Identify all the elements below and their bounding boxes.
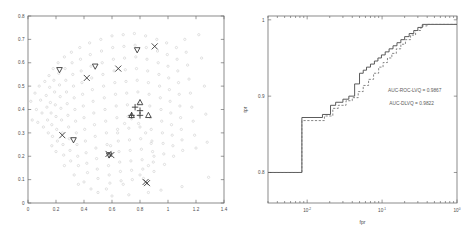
prototype-marker-x	[115, 66, 121, 72]
data-point	[38, 85, 40, 87]
data-point	[102, 73, 104, 75]
data-point	[169, 100, 171, 102]
data-point	[49, 101, 51, 103]
data-point	[101, 62, 103, 64]
data-point	[161, 120, 163, 122]
data-point	[83, 181, 85, 183]
data-point	[64, 67, 66, 69]
data-point	[35, 108, 37, 110]
data-point	[140, 148, 142, 150]
data-point	[168, 88, 170, 90]
data-point	[122, 34, 124, 36]
data-point	[74, 108, 76, 110]
data-point	[125, 80, 127, 82]
data-point	[86, 171, 88, 173]
data-point	[186, 64, 188, 66]
data-point	[94, 135, 96, 137]
data-point	[83, 117, 85, 119]
data-point	[76, 143, 78, 145]
x-tick-label: 1	[167, 207, 170, 212]
data-point	[119, 170, 121, 172]
data-point	[198, 34, 200, 36]
data-point	[65, 79, 67, 81]
data-point	[205, 113, 207, 115]
data-point	[86, 162, 88, 164]
y-tick-label: 0.5	[18, 84, 25, 89]
data-point	[182, 149, 184, 151]
data-point	[37, 121, 39, 123]
data-point	[151, 150, 153, 152]
data-point	[131, 178, 133, 180]
data-point	[203, 85, 205, 87]
data-point	[81, 81, 83, 83]
data-point	[139, 126, 141, 128]
y-tick-label: 0.8	[18, 14, 25, 19]
data-point	[65, 91, 67, 93]
data-point	[74, 120, 76, 122]
data-point	[50, 112, 52, 114]
data-point	[104, 108, 106, 110]
scatter-plot: 00.20.40.60.811.21.400.10.20.30.40.50.60…	[0, 0, 235, 237]
data-point	[165, 42, 167, 44]
data-point	[100, 38, 102, 40]
data-point	[102, 85, 104, 87]
data-point	[188, 78, 190, 80]
data-point	[55, 150, 57, 152]
data-point	[41, 112, 43, 114]
data-point	[123, 45, 125, 47]
x-tick-exponent: 0	[459, 207, 461, 211]
x-tick-label: 0.2	[53, 207, 60, 212]
annotation-auc-dlvq: AUC-DLVQ = 0.9822	[389, 101, 434, 106]
data-point	[160, 189, 162, 191]
prototype-marker-triangle-up	[146, 112, 152, 117]
data-point	[191, 106, 193, 108]
data-point	[103, 97, 105, 99]
data-point	[163, 163, 165, 165]
data-point	[147, 81, 149, 83]
data-point	[124, 69, 126, 71]
data-point	[113, 70, 115, 72]
x-tick-label: 0	[27, 207, 30, 212]
data-point	[88, 42, 90, 44]
data-point	[47, 132, 49, 134]
data-point	[193, 134, 195, 136]
data-point	[112, 58, 114, 60]
data-point	[137, 122, 139, 124]
data-point	[166, 53, 168, 55]
data-point	[81, 93, 83, 95]
x-tick-label: 10-2	[303, 207, 311, 213]
data-point	[195, 147, 197, 149]
data-point	[68, 138, 70, 140]
data-point	[60, 107, 62, 109]
x-tick-label: 0.8	[137, 207, 144, 212]
x-tick-label: 100	[454, 207, 461, 213]
data-point	[56, 128, 58, 130]
data-point	[51, 135, 53, 137]
x-tick-label: 0.4	[81, 207, 88, 212]
data-point	[51, 145, 53, 147]
prototype-marker-triangle-down	[134, 48, 140, 53]
x-tick-label: 1.4	[221, 207, 228, 212]
plot-frame	[28, 16, 224, 203]
data-point	[158, 73, 160, 75]
data-point	[114, 81, 116, 83]
y-tick-label: 0.3	[18, 131, 25, 136]
data-point	[184, 38, 186, 40]
roc-curve-DLVQ	[268, 24, 457, 172]
data-point	[179, 105, 181, 107]
data-point	[106, 143, 108, 145]
data-point	[147, 164, 149, 166]
data-point	[45, 94, 47, 96]
data-point	[126, 104, 128, 106]
data-point	[91, 77, 93, 79]
y-tick-label: 0.7	[18, 37, 25, 42]
data-point	[150, 128, 152, 130]
data-point	[153, 170, 155, 172]
series-prototypes-plus	[128, 104, 143, 119]
data-point	[172, 155, 174, 157]
data-point	[185, 51, 187, 53]
data-point	[180, 128, 182, 130]
data-point	[77, 155, 79, 157]
x-tick-label: 1.2	[193, 207, 200, 212]
data-point	[105, 120, 107, 122]
